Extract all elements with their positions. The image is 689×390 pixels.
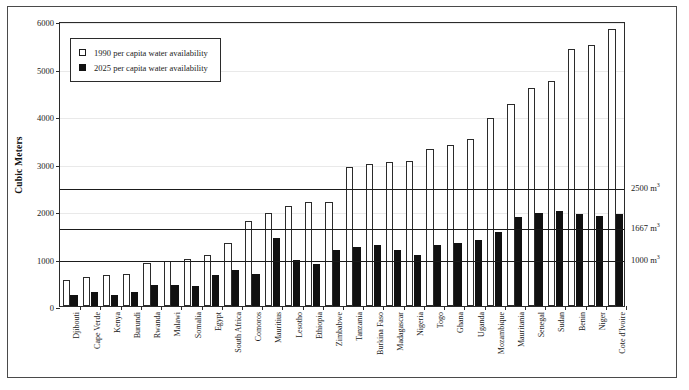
bar-1990 — [507, 104, 514, 306]
x-axis-tick — [343, 306, 344, 310]
y-axis-tick-label: 1000 — [37, 256, 54, 266]
bar-1990 — [366, 164, 373, 307]
x-axis-category-label: Togo — [436, 312, 445, 328]
y-axis-tick-label: 2000 — [37, 208, 54, 218]
x-axis-tick — [565, 306, 566, 310]
bar-2025 — [313, 264, 320, 306]
threshold-line-1000 — [60, 261, 624, 262]
bar-1990 — [406, 161, 413, 306]
x-axis-category-label: Mozambique — [497, 312, 506, 354]
x-axis-category-label: Senegal — [537, 312, 546, 337]
x-axis-category-label: Zimbabwe — [335, 312, 344, 346]
x-axis-tick — [282, 306, 283, 310]
y-axis-tick — [56, 118, 60, 119]
x-axis-tick — [383, 306, 384, 310]
x-axis-tick — [121, 306, 122, 310]
y-axis-tick — [56, 166, 60, 167]
bar-2025 — [232, 270, 239, 306]
x-axis-category-label: Nigeria — [416, 312, 425, 336]
y-axis-tick — [56, 23, 60, 24]
x-axis-tick — [363, 306, 364, 310]
bar-1990 — [103, 275, 110, 306]
gridline — [60, 23, 624, 24]
bar-2025 — [171, 285, 178, 306]
x-axis-category-label: Egypt — [214, 312, 223, 331]
x-axis-category-label: Benin — [578, 312, 587, 331]
bar-2025 — [333, 250, 340, 306]
chart-figure: Cubic Meters 0100020003000400050006000 1… — [0, 0, 689, 390]
bar-2025 — [151, 285, 158, 306]
bar-2025 — [192, 286, 199, 306]
bar-1990 — [467, 139, 474, 306]
x-axis-category-label: Malawi — [173, 312, 182, 336]
open-square-icon — [79, 49, 86, 56]
y-axis-tick — [56, 213, 60, 214]
x-axis-category-label: South Africa — [234, 312, 243, 353]
bar-2025 — [293, 260, 300, 306]
x-axis-category-label: Somalia — [194, 312, 203, 338]
x-axis-tick — [141, 306, 142, 310]
x-axis-tick — [202, 306, 203, 310]
threshold-line-2500 — [60, 189, 624, 190]
x-axis-tick — [545, 306, 546, 310]
y-axis-tick-label: 6000 — [37, 18, 54, 28]
x-axis-tick — [586, 306, 587, 310]
bar-1990 — [447, 145, 454, 306]
bar-1990 — [184, 259, 191, 306]
bar-1990 — [204, 255, 211, 306]
x-axis-tick — [181, 306, 182, 310]
y-axis-tick — [56, 308, 60, 309]
x-axis-category-label: Rwanda — [153, 312, 162, 338]
gridline — [60, 118, 624, 119]
y-axis-tick-label: 0 — [50, 303, 54, 313]
bar-1990 — [386, 162, 393, 306]
bar-1990 — [123, 274, 130, 306]
bar-2025 — [353, 247, 360, 306]
y-axis-title: Cubic Meters — [12, 22, 26, 307]
threshold-label-2500: 2500 m3 — [631, 182, 660, 193]
legend-label-1990: 1990 per capita water availability — [94, 48, 208, 58]
threshold-label-1667: 1667 m3 — [631, 222, 660, 233]
x-axis-category-label: Mauritania — [517, 312, 526, 347]
x-axis-category-label: Lesotho — [295, 312, 304, 338]
x-axis-category-label: Cote d'Ivoire — [618, 312, 627, 354]
x-axis-tick — [464, 306, 465, 310]
bar-2025 — [91, 292, 98, 306]
bar-2025 — [475, 240, 482, 306]
bar-2025 — [414, 255, 421, 306]
x-axis-tick — [222, 306, 223, 310]
legend-item-1990: 1990 per capita water availability — [79, 45, 208, 60]
bar-2025 — [495, 232, 502, 306]
x-axis-category-label: Sudan — [557, 312, 566, 332]
x-axis-category-label: Mauritius — [274, 312, 283, 343]
bar-1990 — [164, 261, 171, 306]
bar-1990 — [487, 118, 494, 306]
x-axis-category-label: Burundi — [133, 312, 142, 338]
x-axis-category-label: Cape Verde — [93, 312, 102, 349]
x-axis-category-label: Niger — [598, 312, 607, 330]
threshold-label-1000: 1000 m3 — [631, 254, 660, 265]
bar-1990 — [63, 280, 70, 306]
bar-2025 — [252, 274, 259, 306]
x-axis-tick — [100, 306, 101, 310]
bar-1990 — [608, 29, 615, 306]
bar-1990 — [285, 206, 292, 306]
x-axis-tick — [303, 306, 304, 310]
x-axis-tick — [262, 306, 263, 310]
chart-legend: 1990 per capita water availability 2025 … — [70, 38, 221, 82]
x-axis-category-label: Ghana — [456, 312, 465, 333]
x-axis-tick — [606, 306, 607, 310]
x-axis-tick — [242, 306, 243, 310]
y-axis-tick-label: 4000 — [37, 113, 54, 123]
bar-1990 — [325, 202, 332, 307]
y-axis-tick-label: 3000 — [37, 161, 54, 171]
x-axis-category-label: Comoros — [254, 312, 263, 341]
threshold-line-1667 — [60, 229, 624, 230]
bar-1990 — [548, 81, 555, 306]
x-axis-category-label: Tanzania — [355, 312, 364, 341]
x-axis-category-label: Madagascar — [396, 312, 405, 351]
x-axis-category-label: Burkina Faso — [376, 312, 385, 355]
x-axis-category-label: Kenya — [113, 312, 122, 333]
legend-item-2025: 2025 per capita water availability — [79, 60, 208, 75]
x-axis-tick — [444, 306, 445, 310]
